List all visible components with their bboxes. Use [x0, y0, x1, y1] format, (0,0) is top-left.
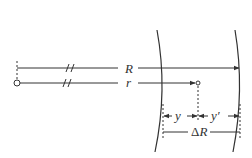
r-point: [196, 81, 200, 85]
r-label: r: [126, 75, 132, 90]
outer-shell-arc: [233, 30, 240, 152]
delta-symbol: Δ: [191, 124, 199, 139]
y-label: y: [173, 108, 181, 123]
deltaR-var: R: [198, 124, 207, 139]
shell-radius-diagram: R r y y′ ΔR: [0, 0, 252, 158]
deltaR-label: ΔR: [191, 124, 207, 139]
origin-point: [14, 80, 20, 86]
inner-shell-arc: [155, 30, 162, 152]
R-label: R: [124, 61, 133, 76]
yprime-label: y′: [209, 108, 220, 123]
